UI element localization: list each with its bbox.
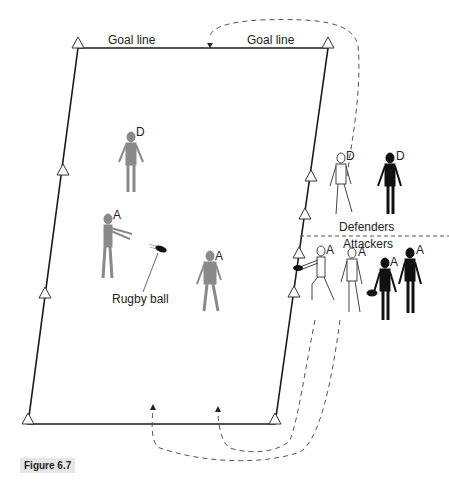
rugby-ball-icon [143, 244, 168, 292]
attackers-label: Attackers [343, 238, 393, 250]
player-role-label: A [215, 250, 223, 262]
rugby-ball-icon [293, 265, 303, 271]
cone-icon [72, 37, 84, 48]
arrow-up-icon [215, 406, 221, 412]
figure-caption: Figure 6.7 [20, 458, 75, 473]
cone-icon [322, 37, 334, 48]
cone-icon [299, 208, 311, 219]
player-field-attacker-passing [103, 214, 132, 278]
player-role-label: D [396, 150, 405, 162]
cone-icon [269, 413, 281, 424]
run-arrows [150, 43, 221, 412]
player-field-defender [119, 132, 143, 192]
goal-line-left-label: Goal line [108, 34, 155, 46]
player-role-label: D [136, 126, 145, 138]
pitch-boundary [28, 48, 328, 424]
defenders-label: Defenders [339, 221, 394, 233]
cone-icon [293, 247, 305, 258]
player-role-label: A [113, 209, 121, 221]
cone-icon [57, 164, 69, 175]
player-sideline-attacker-black [399, 248, 421, 313]
attacker-run-path-1 [152, 320, 340, 461]
arrow-up-icon [150, 404, 156, 410]
cone-icon [22, 413, 34, 424]
player-role-label: A [416, 244, 424, 256]
rugby-ball-label: Rugby ball [112, 293, 169, 305]
goal-line-right-label: Goal line [247, 34, 294, 46]
cones [22, 37, 334, 424]
player-role-label: A [390, 256, 398, 268]
cone-icon [288, 286, 300, 297]
cone-icon [305, 170, 317, 181]
cone-icon [39, 287, 51, 298]
player-role-label: A [326, 244, 334, 256]
player-role-label: D [346, 150, 355, 162]
attacker-run-path-2 [218, 320, 315, 452]
player-role-label: A [358, 246, 366, 258]
